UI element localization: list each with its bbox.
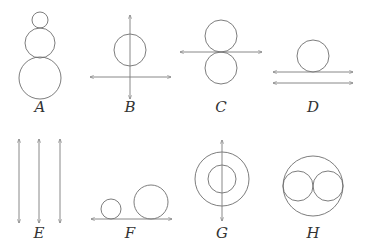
figure-label-e: E xyxy=(33,224,45,242)
figure-label-c: C xyxy=(215,98,227,116)
figure-h: H xyxy=(283,156,343,242)
circle-c-2 xyxy=(205,52,237,84)
figure-e: E xyxy=(19,139,60,242)
circle-h-2 xyxy=(283,171,313,201)
figure-label-h: H xyxy=(305,224,320,242)
figure-f: F xyxy=(91,185,172,242)
circle-d-1 xyxy=(297,40,329,72)
circle-f-2 xyxy=(134,185,168,219)
figure-d: D xyxy=(273,40,353,116)
circle-a-2 xyxy=(25,28,55,58)
figure-label-g: G xyxy=(216,224,228,242)
figure-label-d: D xyxy=(306,98,319,116)
figure-label-b: B xyxy=(123,98,135,116)
figure-label-f: F xyxy=(124,224,136,242)
circle-a-3 xyxy=(19,57,61,99)
circle-a-1 xyxy=(32,12,48,28)
circle-h-3 xyxy=(313,171,343,201)
figure-b: B xyxy=(90,15,171,116)
figure-label-a: A xyxy=(33,98,46,116)
figure-panel: ABCDEFGH xyxy=(0,0,368,249)
circle-c-1 xyxy=(205,20,237,52)
figure-c: C xyxy=(180,20,262,116)
figure-g: G xyxy=(195,140,249,242)
figure-a: A xyxy=(19,12,61,116)
circle-f-1 xyxy=(101,199,121,219)
